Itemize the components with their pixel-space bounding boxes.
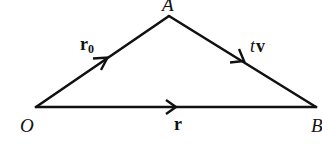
label-point-o: O [20, 115, 34, 136]
label-vector-r: r [174, 114, 182, 134]
label-r0-main: r [80, 34, 88, 54]
label-point-b: B [311, 115, 322, 136]
label-tv-vector: v [256, 36, 265, 56]
vector-triangle-diagram: O A B r 0 t v r [0, 0, 322, 151]
label-vector-r0: r 0 [80, 34, 94, 56]
label-vector-tv: t v [250, 36, 265, 56]
edge-o-a [36, 16, 169, 107]
label-r0-subscript: 0 [88, 42, 94, 56]
label-point-a: A [160, 0, 174, 15]
